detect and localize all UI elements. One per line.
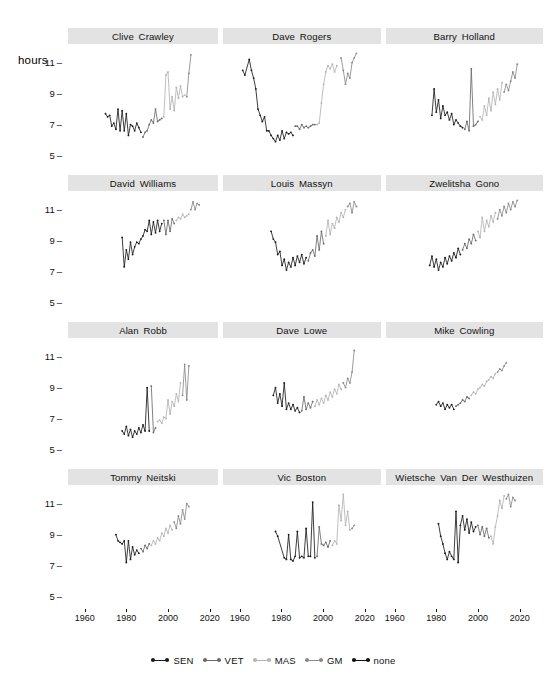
series-point [342, 493, 344, 495]
series-canvas [68, 191, 218, 315]
series-line-vet [295, 125, 315, 130]
legend-item-sen[interactable]: SEN [151, 655, 193, 666]
facet-title-text: Zwelitsha Gono [429, 178, 499, 189]
series-point [490, 376, 492, 378]
series-point [428, 265, 430, 267]
series-point [277, 402, 279, 404]
series-point [433, 88, 435, 90]
series-point [148, 430, 150, 432]
series-point [307, 260, 309, 262]
series-point [490, 110, 492, 112]
facet-plot-area [68, 485, 218, 609]
series-point [146, 130, 148, 132]
series-point [446, 263, 448, 265]
series-point [125, 113, 127, 115]
series-line-sen [431, 89, 462, 128]
series-point [345, 209, 347, 211]
facet-plot-area [386, 191, 544, 315]
series-point [492, 543, 494, 545]
series-line-sen [438, 511, 475, 562]
series-point [180, 85, 182, 87]
series-point [318, 526, 320, 528]
series-point [307, 402, 309, 404]
series-point [320, 230, 322, 232]
series-point [496, 88, 498, 90]
x-tick-label: 1980 [421, 613, 451, 623]
legend-label: none [374, 655, 396, 666]
series-point [481, 384, 483, 386]
series-point [450, 555, 452, 557]
series-point [314, 557, 316, 559]
series-point [441, 402, 443, 404]
series-point [173, 110, 175, 112]
series-point [349, 77, 351, 79]
series-point [167, 399, 169, 401]
series-point [323, 545, 325, 547]
series-canvas [223, 338, 381, 462]
series-point [338, 384, 340, 386]
series-point [294, 410, 296, 412]
x-tick-mark [395, 609, 396, 612]
series-point [285, 269, 287, 271]
series-point [437, 523, 439, 525]
series-point [153, 221, 155, 223]
legend-item-mas[interactable]: MAS [253, 655, 296, 666]
series-point [136, 433, 138, 435]
series-point [450, 404, 452, 406]
series-point [184, 216, 186, 218]
series-point [509, 209, 511, 211]
series-point [444, 257, 446, 259]
series-point [167, 532, 169, 534]
series-point [292, 135, 294, 137]
series-point [470, 394, 472, 396]
x-axis-column: 1960198020002020 [378, 609, 528, 627]
x-tick-mark [365, 609, 366, 612]
series-point [490, 535, 492, 537]
series-point [351, 528, 353, 530]
legend-item-none[interactable]: none [352, 655, 396, 666]
series-point [457, 122, 459, 124]
facet-strip-label: Zwelitsha Gono [386, 175, 544, 191]
facet-panel: Wietsche Van Der Westhuizen [386, 469, 544, 616]
facet-grid: Clive CrawleyDave RogersBarry HollandDav… [68, 28, 543, 616]
facet-plot-area [223, 485, 381, 609]
series-point [461, 127, 463, 129]
series-point [476, 388, 478, 390]
series-point [175, 220, 177, 222]
facet-panel: Dave Rogers [223, 28, 381, 175]
series-point [338, 221, 340, 223]
series-point [336, 543, 338, 545]
x-tick-label: 2020 [350, 613, 380, 623]
series-point [188, 213, 190, 215]
series-point [159, 419, 161, 421]
legend-item-gm[interactable]: GM [305, 655, 343, 666]
facet-panel: Dave Lowe [223, 322, 381, 469]
series-point [161, 223, 163, 225]
series-point [161, 532, 163, 534]
legend-item-vet[interactable]: VET [203, 655, 244, 666]
x-axis-column: 1960198020002020 [68, 609, 218, 627]
series-point [446, 111, 448, 113]
series-point [153, 540, 155, 542]
series-point [347, 377, 349, 379]
series-point [296, 407, 298, 409]
series-point [105, 113, 107, 115]
series-point [130, 124, 132, 126]
series-point [128, 135, 130, 137]
series-point [316, 124, 318, 126]
series-point [334, 540, 336, 542]
series-point [461, 399, 463, 401]
series-point [312, 401, 314, 403]
series-point [347, 73, 349, 75]
series-point [138, 243, 140, 245]
series-point [457, 404, 459, 406]
series-point [111, 125, 113, 127]
series-point [142, 424, 144, 426]
series-point [448, 551, 450, 553]
series-point [511, 497, 513, 499]
series-point [165, 418, 167, 420]
x-tick-label: 1980 [111, 613, 141, 623]
series-canvas [386, 338, 544, 462]
series-point [148, 543, 150, 545]
facet-strip-label: Tommy Neitski [68, 469, 218, 485]
